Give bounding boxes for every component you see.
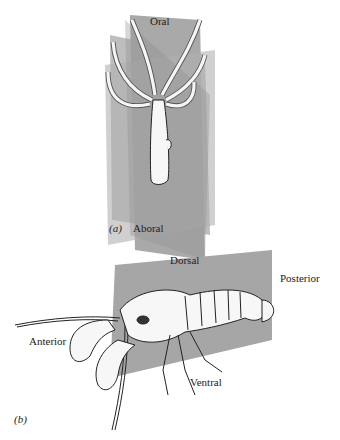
label-oral: Oral xyxy=(150,15,170,27)
figure-canvas xyxy=(0,0,340,440)
label-anterior: Anterior xyxy=(29,335,66,347)
panel-b-tag: (b) xyxy=(14,413,27,425)
panel-a-tag: (a) xyxy=(109,222,122,234)
label-aboral: Aboral xyxy=(133,222,164,234)
label-ventral: Ventral xyxy=(190,376,222,388)
label-dorsal: Dorsal xyxy=(170,254,199,266)
label-posterior: Posterior xyxy=(280,272,320,284)
